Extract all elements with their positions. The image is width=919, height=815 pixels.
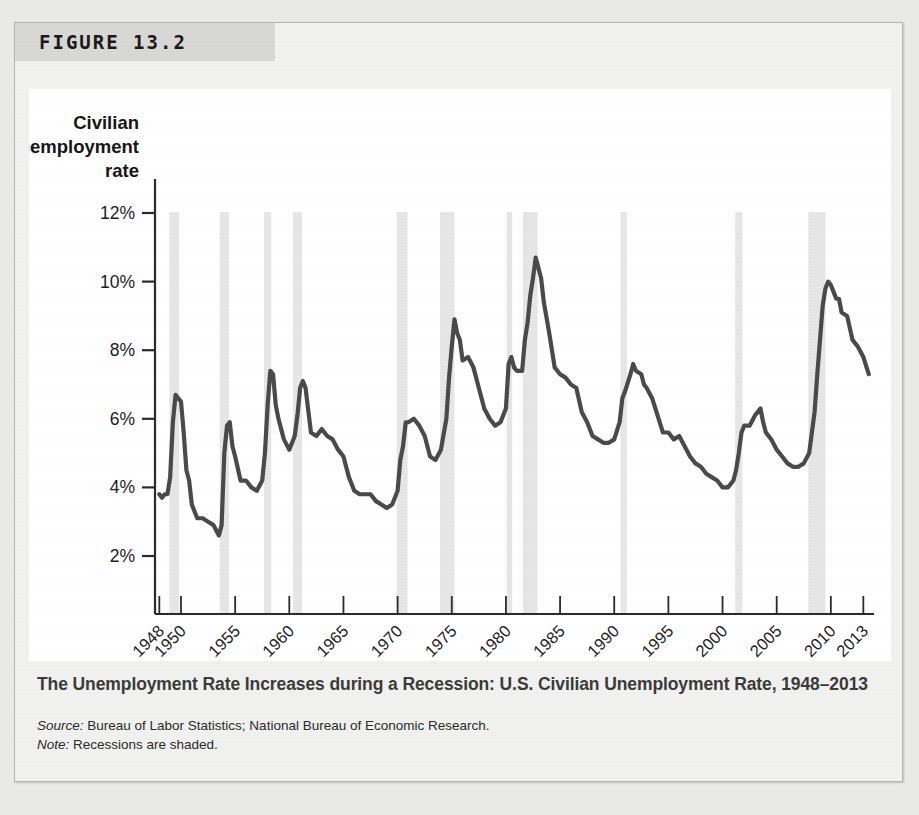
y-axis-tick-label: 12%	[100, 203, 135, 223]
y-axis-tick-label: 8%	[110, 340, 135, 360]
x-axis-tick-label: 1975	[421, 621, 460, 660]
source-line: Source: Bureau of Labor Statistics; Nati…	[37, 716, 877, 735]
y-axis-title-line: unemployment	[29, 136, 139, 157]
chart-plot-panel: 2%4%6%8%10%12% 1948195019551960196519701…	[29, 89, 891, 661]
x-axis-tick-label: 1985	[530, 621, 569, 660]
unemployment-line-chart: 2%4%6%8%10%12% 1948195019551960196519701…	[29, 89, 891, 661]
x-axis-tick-label: 1955	[205, 621, 244, 660]
recession-band	[397, 212, 408, 615]
y-axis-tick-label: 6%	[110, 409, 135, 429]
source-note-block: Source: Bureau of Labor Statistics; Nati…	[37, 716, 877, 754]
axis-group	[155, 179, 874, 614]
note-value: Recessions are shaded.	[69, 737, 218, 752]
x-axis-tick-group: 1948195019551960196519701975198019851990…	[129, 596, 872, 660]
y-axis-title-group: Civilianunemploymentrate	[29, 112, 139, 181]
caption-block: The Unemployment Rate Increases during a…	[37, 673, 877, 754]
x-axis-tick-label: 1970	[367, 621, 406, 660]
figure-caption-title: The Unemployment Rate Increases during a…	[37, 673, 877, 697]
note-line: Note: Recessions are shaded.	[37, 735, 877, 754]
figure-number-label: FIGURE 13.2	[39, 31, 187, 53]
y-axis-title-line: Civilian	[73, 112, 139, 133]
source-value: Bureau of Labor Statistics; National Bur…	[84, 718, 490, 733]
x-axis-tick-label: 1980	[475, 621, 514, 660]
source-label: Source:	[37, 718, 84, 733]
recession-band	[507, 212, 512, 615]
x-axis-tick-label: 1965	[313, 621, 352, 660]
figure-card: FIGURE 13.2 2%4%6%8%10%12% 1948195019551…	[14, 22, 903, 782]
x-axis-tick-label: 2013	[833, 621, 872, 660]
x-axis-tick-label: 1960	[259, 621, 298, 660]
recession-band	[808, 212, 825, 615]
x-axis-tick-label: 1990	[584, 621, 623, 660]
y-axis-title-line: rate	[105, 160, 139, 181]
y-axis-tick-label: 2%	[110, 546, 135, 566]
recession-band	[735, 212, 742, 615]
x-axis-tick-label: 2000	[692, 621, 731, 660]
x-axis-tick-label: 2005	[746, 621, 785, 660]
recession-band	[220, 212, 229, 615]
x-axis-tick-label: 1995	[638, 621, 677, 660]
y-axis-tick-label: 10%	[100, 272, 135, 292]
y-axis-tick-group: 2%4%6%8%10%12%	[100, 203, 155, 566]
note-label: Note:	[37, 737, 69, 752]
y-axis-tick-label: 4%	[110, 477, 135, 497]
x-axis-tick-label: 2010	[800, 621, 839, 660]
